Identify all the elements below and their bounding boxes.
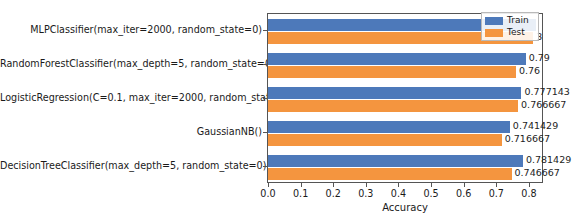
bar-value-label: 0.79 [529,53,550,63]
x-axis-tick-label: 0.8 [521,188,536,199]
x-axis-tick-mark [333,183,334,187]
legend-item-train: Train [485,16,534,25]
y-axis-tick-label: GaussianNB() [0,126,262,137]
figure-canvas: MLPClassifier(max_iter=2000, random_stat… [0,0,578,222]
bar-group: 0.7414290.716667 [268,121,542,146]
y-axis-tick-label: LogisticRegression(C=0.1, max_iter=2000,… [0,92,262,103]
x-axis-tick-mark [268,183,269,187]
bar-test[interactable] [268,66,516,78]
x-axis-tick-label: 0.2 [326,188,341,199]
bar-test[interactable] [268,134,502,146]
bar-test[interactable] [268,100,518,112]
x-axis-tick-label: 0.6 [456,188,471,199]
bar-value-label: 0.746667 [515,168,560,178]
legend-swatch-test-icon [485,29,503,37]
x-axis-tick-mark [464,183,465,187]
x-axis-tick-mark [366,183,367,187]
x-axis-label: Accuracy [267,202,543,213]
bar-value-label: 0.741429 [513,121,558,131]
bar-group: 0.7814290.746667 [268,155,542,180]
x-axis-tick-mark [398,183,399,187]
bar-value-label: 0.781429 [526,155,571,165]
bar-value-label: 0.76 [519,66,540,76]
y-axis-tick-label: MLPClassifier(max_iter=2000, random_stat… [0,24,262,35]
x-axis-tick-label: 0.1 [293,188,308,199]
x-axis-tick-mark [529,183,530,187]
legend-item-test: Test [485,28,534,37]
x-axis-tick-label: 0.5 [423,188,438,199]
bar-train[interactable] [268,121,510,133]
x-axis-tick-label: 0.4 [391,188,406,199]
x-axis-tick-label: 0.7 [489,188,504,199]
x-axis-tick-label: 0.3 [358,188,373,199]
x-axis-tick-mark [496,183,497,187]
x-axis-tick-label: 0.0 [260,188,275,199]
legend-swatch-train-icon [485,17,503,25]
x-axis-tick-mark [301,183,302,187]
legend-label-test: Test [507,28,525,37]
bar-test[interactable] [268,168,512,180]
bar-value-label: 0.777143 [524,87,569,97]
bar-group: 0.7771430.766667 [268,87,542,112]
y-axis-tick-label: DecisionTreeClassifier(max_depth=5, rand… [0,160,262,171]
chart-legend[interactable]: Train Test [481,12,539,41]
bar-train[interactable] [268,53,526,65]
bar-value-label: 0.716667 [505,134,550,144]
x-axis-tick-mark [431,183,432,187]
bar-train[interactable] [268,87,521,99]
legend-label-train: Train [507,16,529,25]
bar-group: 0.790.76 [268,53,542,78]
bar-value-label: 0.766667 [521,100,566,110]
bar-train[interactable] [268,155,523,167]
y-axis-tick-label: RandomForestClassifier(max_depth=5, rand… [0,58,262,69]
